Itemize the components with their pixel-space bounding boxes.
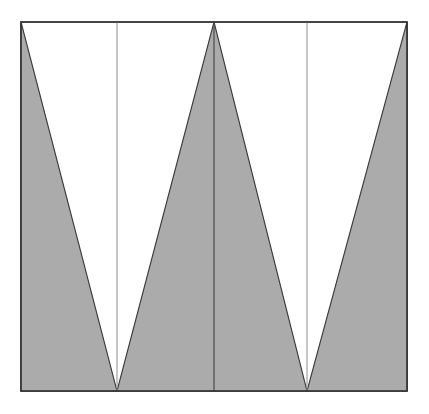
zigzag-figure-svg xyxy=(0,0,429,414)
figure-root xyxy=(0,0,429,414)
